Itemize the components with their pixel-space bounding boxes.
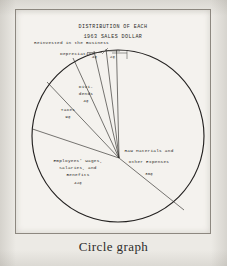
label-taxes: Taxes — [61, 107, 76, 112]
value-taxes: 9¢ — [65, 114, 71, 119]
scanned-page: DISTRIBUTION OF EACH 1963 SALES DOLLAR — [0, 0, 227, 266]
label-dividends-line1: Divi- — [79, 84, 93, 89]
label-dividends-line2: dends — [79, 91, 94, 96]
value-reinvested: 2¢ — [110, 54, 116, 59]
label-employees-line2: Salaries, and — [59, 165, 97, 170]
spoke-raw-materials-end — [119, 158, 184, 210]
label-depreciation: Depreciation — [60, 51, 95, 56]
label-raw-materials-line1: Raw Materials and — [124, 148, 173, 153]
label-employees-line1: Employees' Wages, — [53, 158, 102, 163]
spoke-dividends-end — [73, 58, 119, 158]
circle-graph: 4¢ 2¢ Raw Materials and Other Expenses 3… — [16, 10, 212, 235]
label-raw-materials-line2: Other Expenses — [129, 159, 170, 164]
value-raw-materials: 36¢ — [145, 171, 153, 176]
spoke-employees-end — [33, 129, 120, 158]
figure-frame: DISTRIBUTION OF EACH 1963 SALES DOLLAR — [15, 9, 211, 234]
pie-outline — [32, 50, 204, 222]
figure-caption: Circle graph — [0, 239, 227, 255]
spoke-depreciation-end — [94, 51, 119, 158]
value-dividends: 4¢ — [83, 98, 89, 103]
label-employees-line3: Benefits — [66, 172, 89, 177]
value-employees: 42¢ — [74, 180, 82, 185]
label-reinvested: Reinvested in the Business — [34, 40, 109, 45]
